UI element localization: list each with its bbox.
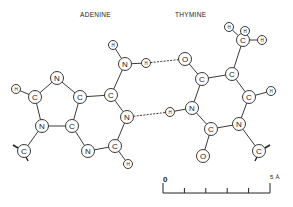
bond-line — [174, 109, 185, 111]
bond-line — [194, 85, 200, 102]
atom-h: H — [267, 87, 276, 96]
atom-c: C — [196, 73, 209, 86]
atom-c: C — [29, 91, 42, 104]
bond-line — [255, 92, 266, 95]
bond-line — [217, 125, 232, 128]
svg-text:N: N — [39, 122, 45, 131]
svg-text:C: C — [240, 36, 246, 45]
bond-line — [74, 103, 79, 119]
bond-line — [236, 79, 245, 92]
svg-text:C: C — [256, 147, 262, 156]
atom-c: C — [105, 89, 118, 102]
bond-line — [114, 70, 123, 89]
bond-line — [94, 147, 108, 150]
svg-text:O: O — [182, 55, 188, 64]
atom-n: N — [82, 145, 95, 158]
svg-text:H: H — [227, 25, 230, 30]
svg-text:H: H — [243, 29, 246, 34]
atom-n: N — [119, 58, 132, 71]
bond-line — [20, 91, 29, 95]
svg-text:H: H — [14, 87, 17, 92]
atom-o: O — [179, 53, 192, 66]
hydrogen-bond-line — [133, 113, 165, 117]
sugar-bond-stub — [13, 145, 18, 148]
atom-n: N — [121, 111, 134, 124]
bond-line — [115, 100, 123, 111]
svg-text:C: C — [199, 75, 205, 84]
bond-line — [119, 151, 126, 160]
svg-text:N: N — [189, 104, 195, 113]
svg-text:H: H — [168, 110, 171, 115]
bond-line — [241, 103, 246, 118]
bond-line — [196, 113, 206, 124]
svg-text:C: C — [21, 147, 27, 156]
scale-start-label: 0 — [163, 175, 168, 184]
atom-h: H — [142, 59, 151, 68]
atom-h: H — [225, 23, 234, 32]
svg-text:H: H — [111, 43, 114, 48]
svg-text:O: O — [200, 152, 206, 161]
svg-text:H: H — [144, 61, 147, 66]
bond-line — [234, 46, 241, 68]
atom-h: H — [124, 160, 133, 169]
atom-c: C — [109, 140, 122, 153]
bond-line — [205, 135, 209, 150]
atom-h: H — [109, 41, 118, 50]
svg-text:C: C — [112, 142, 118, 151]
svg-text:C: C — [208, 125, 214, 134]
atom-n: N — [51, 72, 64, 85]
svg-text:H: H — [269, 89, 272, 94]
bond-line — [208, 75, 225, 78]
atom-c: C — [18, 145, 31, 158]
atom-o: O — [197, 150, 210, 163]
atom-n: N — [233, 118, 246, 131]
svg-text:N: N — [85, 147, 91, 156]
bond-line — [62, 82, 75, 93]
svg-text:C: C — [32, 93, 38, 102]
atom-c: C — [205, 123, 218, 136]
bond-line — [28, 131, 38, 145]
bond-line — [232, 30, 238, 36]
atom-c: C — [253, 145, 266, 158]
sugar-bond-stub — [26, 157, 28, 161]
atom-h: H — [166, 108, 175, 117]
svg-text:C: C — [108, 91, 114, 100]
atom-c: C — [226, 68, 239, 81]
atom-c: C — [66, 120, 79, 133]
svg-text:N: N — [54, 74, 60, 83]
sugar-bond-stub — [265, 145, 270, 148]
hydrogen-bond-line — [150, 60, 178, 63]
atom-n: N — [36, 120, 49, 133]
svg-text:C: C — [77, 93, 83, 102]
svg-text:H: H — [260, 38, 263, 43]
sugar-bond-stub — [255, 157, 257, 161]
bond-line — [243, 129, 255, 146]
svg-text:N: N — [124, 113, 130, 122]
atom-h: H — [12, 85, 21, 94]
base-pair-diagram: HNHCCNCHNCNCHNCOCCCHHHCHNHCONC — [0, 0, 293, 207]
bond-line — [117, 123, 124, 140]
bond-line — [189, 64, 198, 74]
bond-line — [37, 103, 41, 119]
svg-text:C: C — [69, 122, 75, 131]
atom-h: H — [258, 36, 267, 45]
svg-text:H: H — [126, 162, 129, 167]
bond-line — [40, 82, 52, 93]
bond-line — [76, 131, 85, 145]
scale-end-label: 5 Å — [270, 174, 280, 180]
atom-h: H — [241, 27, 250, 36]
svg-text:N: N — [236, 120, 242, 129]
svg-text:C: C — [229, 70, 235, 79]
svg-text:N: N — [122, 60, 128, 69]
atom-c: C — [74, 91, 87, 104]
svg-text:C: C — [246, 93, 252, 102]
bond-line — [115, 49, 121, 59]
bond-line — [86, 95, 104, 96]
atom-n: N — [186, 102, 199, 115]
atom-c: C — [243, 91, 256, 104]
